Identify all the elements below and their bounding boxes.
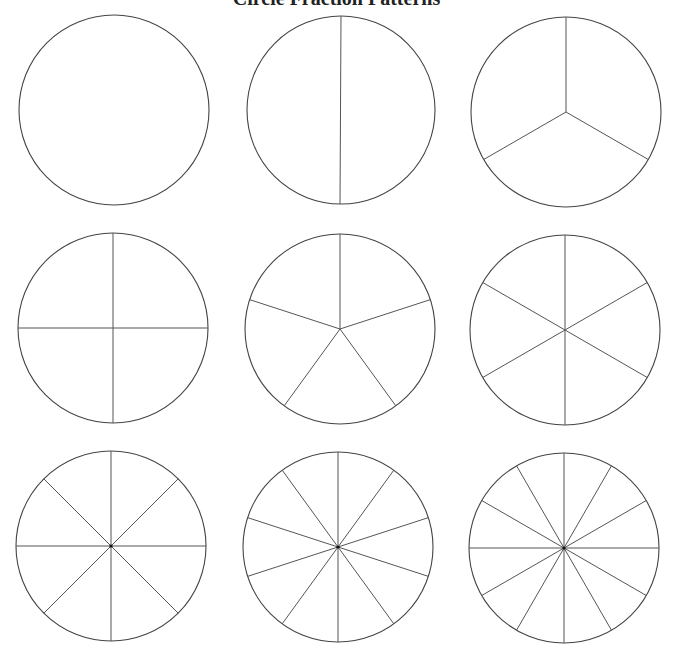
divider-line: [111, 479, 178, 546]
fraction-circle-whole: [19, 15, 209, 205]
fraction-circle-tenths: [243, 452, 433, 642]
fraction-circle-fifths: [245, 234, 435, 424]
fraction-circle-eighths: [16, 451, 206, 641]
divider-line: [340, 329, 396, 406]
divider-line: [482, 501, 564, 549]
divider-line: [564, 548, 612, 630]
divider-line: [44, 546, 111, 613]
divider-line: [565, 330, 647, 378]
fraction-circles-canvas: [0, 0, 673, 652]
divider-line: [340, 300, 430, 329]
divider-line: [340, 16, 341, 204]
fraction-circle-thirds: [471, 17, 661, 207]
divider-line: [282, 547, 338, 624]
divider-line: [338, 547, 428, 576]
fraction-circle-fourths: [18, 233, 208, 423]
divider-line: [564, 501, 646, 549]
divider-line: [248, 547, 338, 576]
divider-line: [282, 470, 338, 547]
divider-line: [483, 330, 565, 378]
fraction-circle-halves: [247, 16, 435, 204]
divider-line: [565, 283, 647, 331]
center-dot: [109, 544, 112, 547]
divider-line: [517, 548, 565, 630]
divider-line: [517, 466, 565, 548]
divider-line: [483, 283, 565, 331]
divider-line: [484, 112, 566, 160]
divider-line: [338, 518, 428, 547]
divider-line: [564, 548, 646, 596]
center-dot: [336, 545, 339, 548]
divider-line: [564, 466, 612, 548]
center-dot: [562, 546, 565, 549]
fraction-circle-sixths: [470, 235, 660, 425]
divider-line: [566, 112, 648, 160]
divider-line: [248, 518, 338, 547]
divider-line: [338, 547, 394, 624]
divider-line: [338, 470, 394, 547]
divider-line: [250, 300, 340, 329]
fraction-circle-twelfths: [469, 453, 659, 643]
divider-line: [284, 329, 340, 406]
divider-line: [111, 546, 178, 613]
divider-line: [44, 479, 111, 546]
divider-line: [482, 548, 564, 596]
circle-outline: [19, 15, 209, 205]
